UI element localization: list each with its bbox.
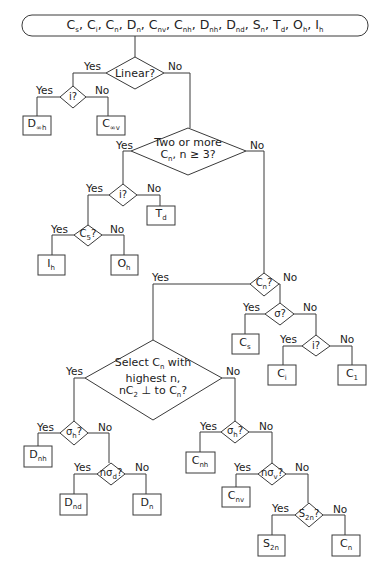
inversion-decision-2-label: i?	[119, 190, 127, 200]
c5-no-label: No	[110, 224, 124, 235]
inversion-decision-3-label: i?	[312, 341, 320, 351]
c5-decision-label: C5?	[80, 229, 97, 242]
two-or-more-no-label: No	[250, 140, 264, 151]
n-sigma-d-yes-label: Yes	[74, 462, 91, 473]
inv2-no-label: No	[147, 183, 161, 194]
s2n-yes-label: Yes	[272, 503, 289, 514]
result-c-i: Ci	[277, 368, 287, 382]
sigma-h-right-yes-label: Yes	[200, 421, 217, 432]
select-cn-decision-label: Select Cn with highest n, nC2 ⊥ to Cn?	[115, 357, 191, 401]
s2n-no-label: No	[333, 504, 347, 515]
header-group-dn: Dn,	[127, 17, 149, 32]
result-o-h: Oh	[117, 258, 130, 272]
result-s-2n: S2n	[263, 538, 279, 552]
sigma-decision-label: σ?	[274, 309, 286, 319]
point-groups-header: Cs, Ci, Cn, Dn, Cnv, Cnh, Dnh, Dnd, Sn, …	[67, 19, 324, 34]
sigma-h-right-decision-label: σh?	[227, 426, 243, 439]
header-group-ci: Ci,	[87, 17, 106, 32]
header-group-td: Td,	[273, 17, 293, 32]
inv1-no-label: No	[95, 85, 109, 96]
result-c-nv: Cnv	[228, 490, 244, 504]
result-c-nh: Cnh	[192, 455, 209, 469]
c5-yes-label: Yes	[51, 224, 68, 235]
sigma-h-left-no-label: No	[98, 422, 112, 433]
header-group-ih: Ih	[315, 17, 323, 32]
result-d-inf-h: D∞h	[28, 118, 47, 132]
n-sigma-d-decision-label: nσd?	[100, 468, 122, 481]
result-t-d: Td	[155, 208, 166, 222]
header-group-dnh: Dnh,	[200, 17, 226, 32]
n-sigma-d-no-label: No	[135, 462, 149, 473]
sigma-h-left-decision-label: σh?	[66, 427, 82, 440]
result-d-nh: Dnh	[29, 449, 46, 463]
cn-decision-label: Cn?	[256, 278, 273, 291]
header-group-sn: Sn,	[253, 17, 273, 32]
header-group-cn: Cn,	[106, 17, 127, 32]
header-group-cnv: Cnv,	[149, 17, 174, 32]
n-sigma-v-yes-label: Yes	[234, 462, 251, 473]
cn-no-label: No	[283, 272, 297, 283]
inversion-decision-1-label: i?	[69, 92, 77, 102]
two-or-more-decision-label: Two or more Cn, n ≥ 3?	[154, 137, 221, 165]
result-c-1: C1	[346, 368, 358, 382]
inv3-no-label: No	[340, 334, 354, 345]
point-group-flowchart: Cs, Ci, Cn, Dn, Cnv, Cnh, Dnh, Dnd, Sn, …	[0, 0, 389, 571]
header-group-cs: Cs,	[67, 17, 87, 32]
result-d-n: Dn	[141, 497, 154, 511]
select-no-label: No	[226, 366, 240, 377]
n-sigma-v-decision-label: nσv?	[261, 468, 283, 481]
inv1-yes-label: Yes	[36, 85, 53, 96]
header-group-oh: Oh,	[293, 17, 315, 32]
linear-decision-label: Linear?	[115, 68, 155, 79]
sigma-h-left-yes-label: Yes	[37, 422, 54, 433]
result-i-h: Ih	[47, 258, 55, 272]
linear-yes-label: Yes	[84, 61, 101, 72]
flowchart-lines	[0, 0, 389, 571]
header-group-dnd: Dnd,	[226, 17, 253, 32]
result-c-n: Cn	[340, 538, 352, 552]
inv2-yes-label: Yes	[86, 183, 103, 194]
cn-yes-label: Yes	[152, 272, 169, 283]
sigma-h-right-no-label: No	[259, 421, 273, 432]
select-yes-label: Yes	[66, 366, 83, 377]
result-c-inf-v: C∞v	[102, 118, 120, 132]
two-or-more-yes-label: Yes	[116, 140, 133, 151]
result-c-s: Cs	[239, 337, 250, 351]
n-sigma-v-no-label: No	[295, 462, 309, 473]
inv3-yes-label: Yes	[280, 334, 297, 345]
header-group-cnh: Cnh,	[174, 17, 200, 32]
sigma-yes-label: Yes	[243, 302, 260, 313]
s2n-decision-label: S2n?	[299, 509, 320, 522]
linear-no-label: No	[168, 61, 182, 72]
result-d-nd: Dnd	[64, 497, 81, 511]
sigma-no-label: No	[303, 302, 317, 313]
